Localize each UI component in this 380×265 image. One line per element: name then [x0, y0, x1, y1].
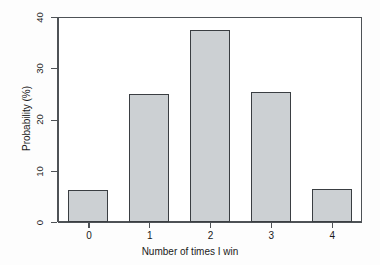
x-axis-tick-mark-4	[332, 222, 333, 228]
x-axis-tick-label-1: 1	[135, 230, 165, 242]
bar-slot-4	[301, 17, 362, 222]
x-axis-tick-label-0: 0	[74, 230, 104, 242]
y-axis-tick-label-40: 40	[34, 12, 45, 23]
y-axis-tick-label-20: 20	[34, 114, 45, 125]
bar-slot-0	[58, 17, 119, 222]
x-axis-tick-label-2: 2	[196, 230, 226, 242]
x-axis-tick-label-4: 4	[317, 230, 347, 242]
y-axis-tick-label-30: 30	[34, 63, 45, 74]
x-axis-tick-mark-0	[88, 222, 89, 228]
bar-slot-2	[180, 17, 241, 222]
y-axis-title: Probability (%)	[21, 49, 32, 189]
y-axis-tick-label-10: 10	[34, 166, 45, 177]
y-axis-tick-mark-30	[51, 68, 57, 69]
bar-category-1[interactable]	[129, 94, 169, 222]
y-axis-tick-mark-20	[51, 120, 57, 121]
x-axis-tick-mark-3	[271, 222, 272, 228]
bar-category-3[interactable]	[251, 92, 291, 222]
y-axis-tick-mark-0	[51, 222, 57, 223]
x-axis-title: Number of times I win	[0, 246, 380, 257]
y-axis-line	[57, 17, 58, 222]
x-axis-tick-mark-1	[149, 222, 150, 228]
y-axis-tick-mark-40	[51, 17, 57, 18]
y-axis-tick-mark-10	[51, 171, 57, 172]
chart-screenshot: 0 10 20 30 40 0 1 2 3 4 Number of times …	[0, 0, 380, 265]
plot-area	[58, 17, 362, 222]
bar-category-4[interactable]	[312, 189, 352, 222]
bar-category-0[interactable]	[68, 190, 108, 222]
bar-slot-1	[119, 17, 180, 222]
bar-slot-3	[240, 17, 301, 222]
x-axis-tick-mark-2	[210, 222, 211, 228]
bar-category-2[interactable]	[190, 30, 230, 222]
x-axis-tick-label-3: 3	[256, 230, 286, 242]
y-axis-tick-label-0: 0	[34, 220, 45, 225]
bar-chart-figure: 0 10 20 30 40 0 1 2 3 4 Number of times …	[0, 0, 380, 265]
